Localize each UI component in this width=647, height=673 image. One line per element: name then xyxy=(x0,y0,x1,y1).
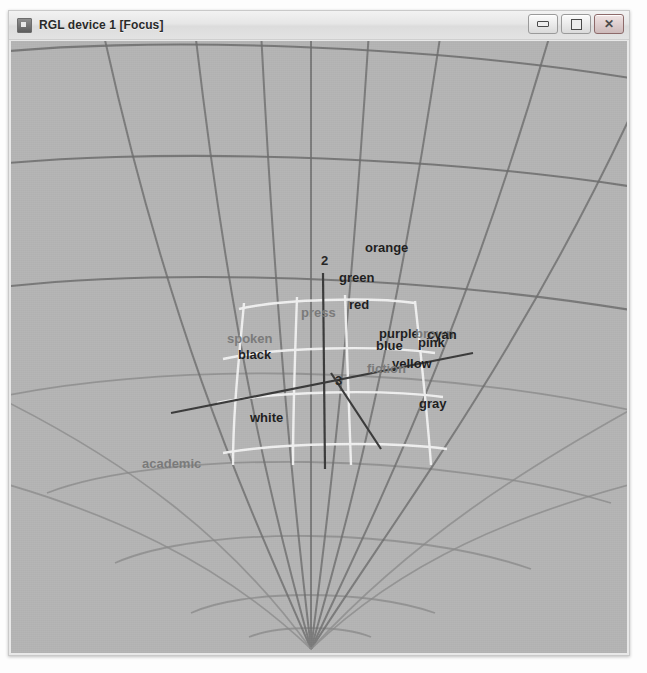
word-label-press: press xyxy=(301,306,336,319)
word-label-black: black xyxy=(238,348,271,361)
word-label-green: green xyxy=(339,271,374,284)
sphere-wireframe xyxy=(11,41,627,653)
screen-root: RGL device 1 [Focus] ✕ xyxy=(0,0,647,673)
word-label-blue: blue xyxy=(376,339,403,352)
axis-tick-2: 2 xyxy=(321,254,328,267)
close-icon: ✕ xyxy=(602,17,616,31)
window-title: RGL device 1 [Focus] xyxy=(39,18,163,32)
word-label-orange: orange xyxy=(365,241,408,254)
word-label-gray: gray xyxy=(419,397,446,410)
word-label-academic: academic xyxy=(142,457,201,470)
rgl-canvas[interactable]: orangegreenredpressspokenblackpurplebrow… xyxy=(11,41,627,653)
rgl-app-icon xyxy=(17,18,32,33)
word-label-red: red xyxy=(349,298,369,311)
maximize-button[interactable] xyxy=(561,14,591,34)
minimize-icon xyxy=(537,21,549,27)
maximize-icon xyxy=(571,19,582,30)
window-title-bar[interactable]: RGL device 1 [Focus] ✕ xyxy=(9,11,629,40)
word-label-white: white xyxy=(250,411,283,424)
window-controls: ✕ xyxy=(528,14,624,34)
axis-tick-3: 3 xyxy=(335,374,342,387)
rgl-device-window: RGL device 1 [Focus] ✕ xyxy=(8,10,630,656)
close-button[interactable]: ✕ xyxy=(594,14,624,34)
word-label-spoken: spoken xyxy=(227,332,273,345)
word-label-fiction: fiction xyxy=(367,362,406,375)
word-label-pink: pink xyxy=(418,336,445,349)
minimize-button[interactable] xyxy=(528,14,558,34)
